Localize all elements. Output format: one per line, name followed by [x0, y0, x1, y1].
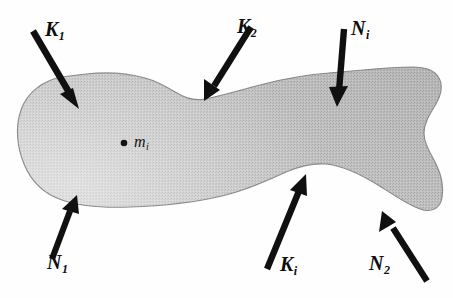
- force-label-K1: K1: [45, 19, 65, 42]
- force-diagram-figure: K1 K2 Ni N1 Ki N2 mi: [0, 0, 453, 298]
- force-label-Ni: Ni: [351, 18, 369, 41]
- force-label-N2: N2: [369, 253, 390, 276]
- force-arrow-N1: [52, 195, 79, 259]
- mass-point-label: mi: [134, 134, 149, 152]
- mass-point-dot: [121, 140, 128, 147]
- force-label-Ki: Ki: [280, 254, 297, 277]
- force-label-K2: K2: [237, 16, 257, 39]
- force-label-N1: N1: [47, 252, 68, 275]
